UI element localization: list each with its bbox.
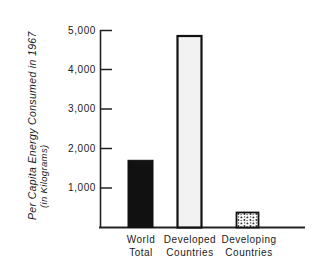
x-label-developed-countries: Developed Countries <box>156 233 224 259</box>
x-label-developing-countries-line1: Developing <box>215 233 283 246</box>
bar-world-total <box>128 160 153 227</box>
bar-chart-figure: Per Capita Energy Consumed in 1967 (in K… <box>0 0 329 274</box>
x-label-developing-countries: Developing Countries <box>215 233 283 259</box>
bar-developing-countries <box>237 213 259 228</box>
x-label-developed-countries-line1: Developed <box>156 233 224 246</box>
x-label-developed-countries-line2: Countries <box>156 246 224 259</box>
bar-developed-countries <box>178 36 202 228</box>
x-label-developing-countries-line2: Countries <box>215 246 283 259</box>
